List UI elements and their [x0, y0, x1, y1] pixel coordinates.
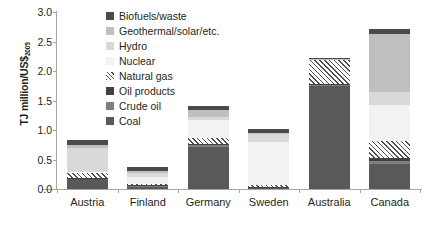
x-axis-label-canada: Canada	[335, 196, 428, 208]
bar-segment-natural-gas	[67, 173, 108, 178]
bar-segment-hydro	[248, 134, 289, 142]
bar-segment-crude-oil	[127, 186, 168, 187]
legend-item-label: Crude oil	[119, 100, 161, 112]
legend-swatch-icon	[106, 57, 114, 65]
legend-item-biofuels-waste[interactable]: Biofuels/waste	[106, 8, 219, 23]
y-axis-tick-mark	[53, 42, 57, 43]
bar-segment-geothermal-solar-etc	[248, 133, 289, 134]
legend-swatch-icon	[106, 87, 114, 95]
x-axis-tick-mark	[360, 189, 361, 193]
bar-segment-geothermal-solar-etc	[67, 145, 108, 148]
bar-segment-biofuels-waste	[369, 29, 410, 34]
y-axis-tick-mark	[53, 130, 57, 131]
x-axis-tick-mark	[420, 189, 421, 193]
legend-item-label: Natural gas	[119, 70, 173, 82]
y-axis-tick-label: 2.5	[37, 36, 52, 48]
legend-item-hydro[interactable]: Hydro	[106, 38, 219, 53]
y-axis-tick-mark	[53, 101, 57, 102]
y-axis-tick-mark	[53, 71, 57, 72]
bar-segment-coal	[248, 188, 289, 189]
y-axis-title: TJ million/US$2005	[18, 14, 30, 154]
legend-item-nuclear[interactable]: Nuclear	[106, 53, 219, 68]
x-axis-tick-mark	[178, 189, 179, 193]
bar-segment-crude-oil	[67, 178, 108, 179]
x-axis-line	[42, 189, 422, 190]
y-axis-tick-label: 0.0	[37, 183, 52, 195]
legend-swatch-icon	[106, 27, 114, 35]
bar-segment-biofuels-waste	[67, 140, 108, 145]
bar-segment-oil-products	[127, 185, 168, 186]
legend-item-oil-products[interactable]: Oil products	[106, 83, 219, 98]
y-axis-title-subscript: 2005	[24, 42, 31, 56]
legend-item-label: Nuclear	[119, 55, 155, 67]
bar-segment-coal	[127, 187, 168, 189]
bar-segment-natural-gas	[248, 185, 289, 186]
legend-swatch-icon	[106, 12, 114, 20]
bar-segment-coal	[188, 147, 229, 189]
y-axis-tick-label: 0.5	[37, 154, 52, 166]
bar-segment-oil-products	[369, 158, 410, 160]
bar-segment-oil-products	[248, 187, 289, 188]
x-axis-tick-mark	[118, 189, 119, 193]
y-axis-tick-mark	[53, 12, 57, 13]
legend-item-coal[interactable]: Coal	[106, 114, 219, 129]
bar-segment-nuclear	[127, 177, 168, 184]
legend-item-label: Coal	[119, 115, 141, 127]
bar-segment-crude-oil	[248, 187, 289, 188]
bar-segment-hydro	[67, 148, 108, 173]
legend-item-geothermal-solar-etc[interactable]: Geothermal/solar/etc.	[106, 23, 219, 38]
bar-segment-natural-gas	[127, 184, 168, 185]
bar-segment-natural-gas	[309, 59, 350, 84]
legend-swatch-icon	[106, 102, 114, 110]
y-axis-tick-label: 1.5	[37, 95, 52, 107]
bar-segment-hydro	[127, 173, 168, 177]
chart-root: TJ million/US$2005 0.00.51.01.52.02.53.0…	[0, 0, 428, 230]
bar-segment-nuclear	[248, 142, 289, 185]
bar-segment-crude-oil	[188, 145, 229, 147]
legend-item-label: Hydro	[119, 40, 147, 52]
bar-segment-biofuels-waste	[127, 167, 168, 171]
bar-segment-hydro	[369, 92, 410, 104]
y-axis-tick-label: 1.0	[37, 124, 52, 136]
y-axis-title-text: TJ million/US$	[18, 56, 30, 126]
legend-swatch-icon	[106, 42, 114, 50]
x-axis-tick-mark	[239, 189, 240, 193]
legend-swatch-icon	[106, 117, 114, 125]
x-axis-tick-mark	[299, 189, 300, 193]
bar-segment-biofuels-waste	[248, 129, 289, 133]
legend-item-label: Oil products	[119, 85, 175, 97]
bar-segment-nuclear	[369, 105, 410, 142]
bar-segment-biofuels-waste	[309, 58, 350, 59]
bar-segment-crude-oil	[309, 85, 350, 86]
y-axis-tick-mark	[53, 160, 57, 161]
legend-item-crude-oil[interactable]: Crude oil	[106, 99, 219, 114]
legend-item-label: Biofuels/waste	[119, 10, 187, 22]
y-axis-tick-label: 2.0	[37, 65, 52, 77]
bar-segment-coal	[309, 86, 350, 189]
legend-swatch-icon	[106, 72, 114, 80]
bar-segment-geothermal-solar-etc	[369, 34, 410, 92]
bar-segment-oil-products	[309, 84, 350, 85]
chart-legend: Biofuels/wasteGeothermal/solar/etc.Hydro…	[106, 8, 219, 129]
bar-segment-geothermal-solar-etc	[127, 171, 168, 173]
y-axis-tick-label: 3.0	[37, 6, 52, 18]
bar-segment-geothermal-solar-etc	[309, 59, 350, 60]
bar-segment-coal	[369, 164, 410, 189]
legend-item-natural-gas[interactable]: Natural gas	[106, 68, 219, 83]
bar-segment-oil-products	[67, 178, 108, 179]
bar-segment-natural-gas	[369, 141, 410, 158]
bar-segment-oil-products	[188, 144, 229, 145]
legend-item-label: Geothermal/solar/etc.	[119, 25, 219, 37]
x-axis-tick-mark	[57, 189, 58, 193]
bar-segment-natural-gas	[188, 138, 229, 144]
bar-segment-coal	[67, 179, 108, 189]
bar-segment-crude-oil	[369, 161, 410, 165]
